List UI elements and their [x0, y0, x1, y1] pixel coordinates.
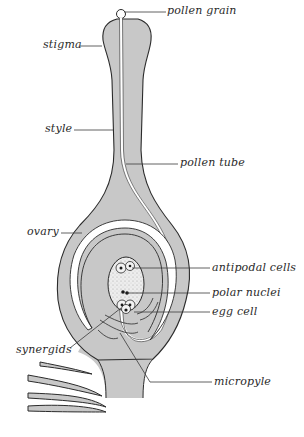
label-synergids: synergids	[16, 344, 72, 355]
label-style: style	[45, 123, 72, 134]
label-ovary: ovary	[27, 226, 59, 237]
label-antipodal-cells: antipodal cells	[212, 262, 296, 273]
label-egg-cell: egg cell	[212, 306, 257, 317]
label-micropyle: micropyle	[214, 376, 271, 387]
pistil-diagram	[0, 0, 304, 437]
label-pollen-tube: pollen tube	[180, 157, 245, 168]
label-polar-nuclei: polar nuclei	[212, 287, 281, 298]
sepals	[28, 362, 106, 412]
label-pollen-grain: pollen grain	[167, 5, 237, 16]
label-stigma: stigma	[43, 39, 82, 50]
pollen-grain	[117, 10, 126, 19]
